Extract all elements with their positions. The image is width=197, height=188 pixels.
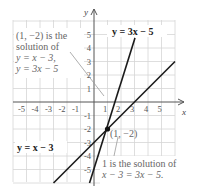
- svg-text:3: 3: [87, 57, 91, 67]
- svg-text:-5: -5: [18, 104, 25, 114]
- svg-text:1: 1: [103, 104, 107, 114]
- y-axis-label: y: [83, 7, 88, 17]
- svg-text:-4: -4: [31, 104, 39, 114]
- x-axis-label: x: [181, 107, 186, 117]
- svg-text:-1: -1: [72, 104, 79, 114]
- svg-text:x − 3 = 3x − 5.: x − 3 = 3x − 5.: [101, 169, 164, 180]
- svg-text:-5: -5: [84, 165, 91, 175]
- svg-text:1 is the solution of: 1 is the solution of: [102, 158, 177, 169]
- svg-text:-2: -2: [84, 124, 91, 134]
- graph-canvas: y x -5 -4 -3 -2 -1 1 2 3 4 5 5 4 3 2 1 -…: [0, 0, 197, 188]
- svg-text:-2: -2: [58, 104, 65, 114]
- svg-text:-1: -1: [84, 111, 91, 121]
- svg-text:y = x − 3,: y = x − 3,: [15, 52, 56, 63]
- svg-text:5: 5: [157, 104, 161, 114]
- svg-text:2: 2: [116, 104, 120, 114]
- line2-label: y = 3x − 5: [112, 26, 153, 37]
- svg-text:y = 3x − 5: y = 3x − 5: [15, 63, 58, 74]
- svg-text:solution of: solution of: [16, 41, 60, 52]
- svg-text:1: 1: [87, 84, 91, 94]
- note-bottom-pointer: [114, 137, 118, 156]
- point-label: (1, −2): [110, 128, 137, 140]
- svg-text:5: 5: [87, 30, 91, 40]
- line1-label: y = x − 3: [17, 142, 53, 153]
- svg-text:-3: -3: [45, 104, 52, 114]
